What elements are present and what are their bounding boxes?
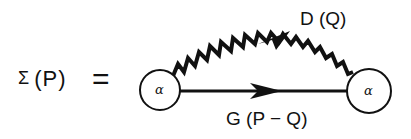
photon-propagator-label: D (Q) (300, 8, 346, 30)
fermion-propagator-label: G (P − Q) (226, 108, 307, 130)
feynman-diagram: α α (0, 0, 411, 139)
right-vertex-label: α (364, 83, 373, 98)
photon-line (173, 33, 353, 76)
left-vertex-label: α (155, 82, 164, 97)
